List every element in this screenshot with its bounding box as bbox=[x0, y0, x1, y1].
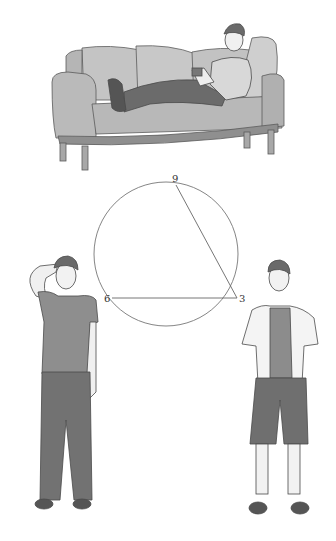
chord-9-3 bbox=[176, 185, 237, 298]
point-label-6: 6 bbox=[104, 294, 110, 304]
point-label-3: 3 bbox=[239, 294, 245, 304]
point-label-9: 9 bbox=[172, 174, 178, 184]
sofa-scene bbox=[0, 0, 336, 180]
clock-circle bbox=[94, 182, 238, 326]
